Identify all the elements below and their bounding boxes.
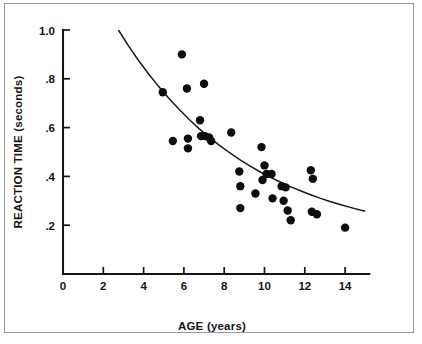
data-point [235,167,243,175]
data-point [281,183,289,191]
data-point [178,50,186,58]
x-tick-label: 0 [60,280,66,292]
data-point [207,137,215,145]
data-points-layer [159,50,350,232]
x-tick-label: 4 [140,280,147,292]
data-point [196,116,204,124]
data-point [260,161,268,169]
y-tick-label: .8 [45,73,55,85]
data-point [341,223,349,231]
data-point [169,137,177,145]
y-axis-title: REACTION TIME (seconds) [12,76,24,229]
data-point [159,88,167,96]
y-tick-label: .4 [45,171,55,183]
data-point [267,170,275,178]
x-tick-label: 8 [221,280,228,292]
data-point [307,166,315,174]
data-point [257,143,265,151]
data-point [184,144,192,152]
scatter-plot: .2.4.6.81.0 02468101214 AGE (years) REAC… [0,0,422,344]
data-point [184,134,192,142]
data-point [236,182,244,190]
data-point [309,175,317,183]
data-point [268,194,276,202]
data-point [200,79,208,87]
data-point [286,216,294,224]
x-axis-title: AGE (years) [178,320,246,332]
figure-container: .2.4.6.81.0 02468101214 AGE (years) REAC… [0,0,422,344]
x-axis-tick-labels: 02468101214 [60,280,352,292]
y-tick-label: .6 [45,122,55,134]
x-tick-label: 14 [339,280,352,292]
data-point [313,210,321,218]
data-point [227,128,235,136]
data-point [283,206,291,214]
x-tick-label: 12 [298,280,311,292]
data-point [236,204,244,212]
x-tick-label: 6 [181,280,187,292]
y-tick-label: 1.0 [39,25,55,37]
y-tick-label: .2 [45,220,55,232]
data-point [183,84,191,92]
y-axis-tick-labels: .2.4.6.81.0 [39,25,56,232]
data-point [251,189,259,197]
data-point [279,197,287,205]
x-tick-label: 2 [100,280,106,292]
x-tick-label: 10 [258,280,271,292]
